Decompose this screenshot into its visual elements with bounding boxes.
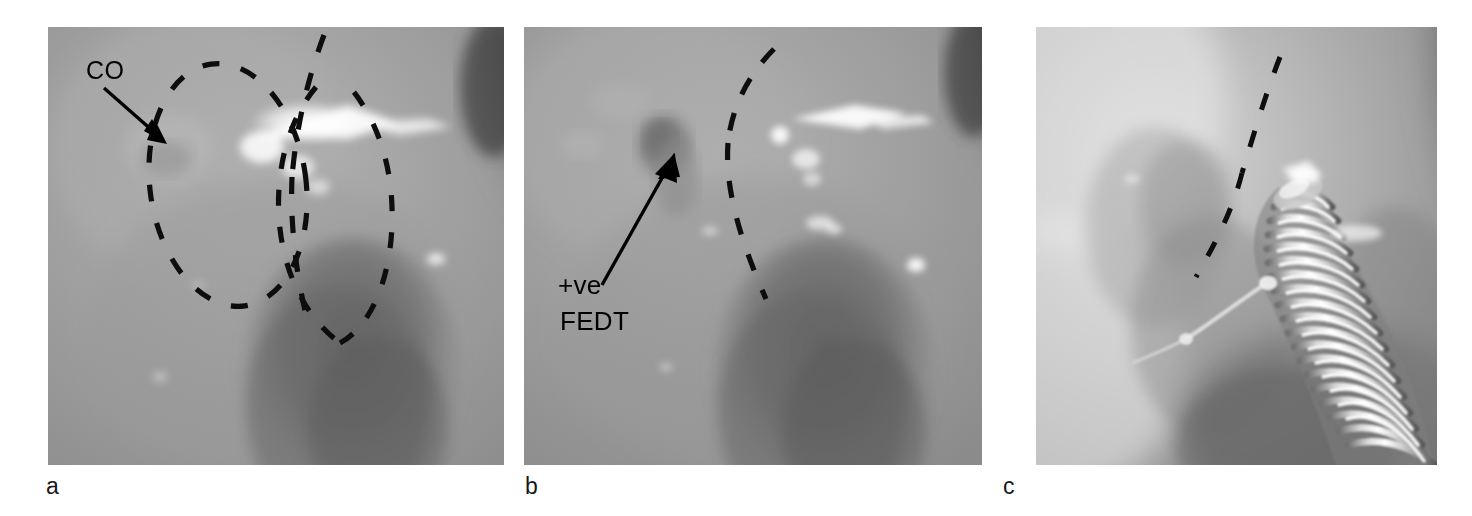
film-grain: [48, 27, 504, 465]
fedt-label-test: FEDT: [560, 308, 629, 335]
fedt-label-positive: +ve: [558, 272, 602, 299]
panel-b: +ve FEDT: [524, 27, 982, 465]
panel-label-a: a: [46, 476, 59, 496]
panel-label-b: b: [525, 476, 538, 496]
co-label: CO: [86, 57, 125, 83]
panel-label-c: c: [1003, 476, 1015, 496]
panel-c-photograph: [1036, 27, 1437, 465]
panel-b-photograph: [524, 27, 982, 465]
panel-c: [1036, 27, 1437, 465]
figure-root: CO: [0, 0, 1472, 516]
panel-a: CO: [48, 27, 504, 465]
panel-a-photograph: [48, 27, 504, 465]
